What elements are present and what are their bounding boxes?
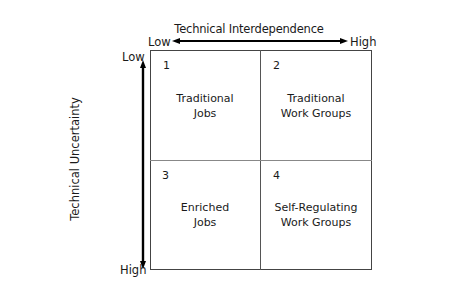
quadrant-label-line1: Enriched [150, 200, 260, 215]
quadrant-label-line1: Self-Regulating [261, 200, 371, 215]
horizontal-double-arrow-icon [172, 38, 348, 44]
quadrant-label-line1: Traditional [150, 91, 260, 106]
x-axis-high-label: High [350, 35, 376, 49]
quadrant-number: 1 [163, 59, 170, 72]
y-axis-high-label: High [120, 263, 146, 277]
horizontal-divider [150, 160, 372, 161]
quadrant-number: 4 [273, 169, 280, 182]
y-axis-title: Technical Uncertainty [68, 84, 82, 234]
y-axis-low-label: Low [122, 50, 145, 64]
x-axis-low-label: Low [148, 35, 171, 49]
quadrant-label-line2: Jobs [150, 215, 260, 230]
x-axis-title: Technical Interdependence [174, 22, 324, 36]
quadrant-label-line2: Work Groups [261, 215, 371, 230]
quadrant-label-line1: Traditional [261, 91, 371, 106]
quadrant-number: 2 [273, 59, 280, 72]
quadrant-number: 3 [162, 169, 169, 182]
quadrant-label-line2: Work Groups [261, 106, 371, 121]
quadrant-label-line2: Jobs [150, 106, 260, 121]
vertical-double-arrow-icon [140, 60, 146, 269]
